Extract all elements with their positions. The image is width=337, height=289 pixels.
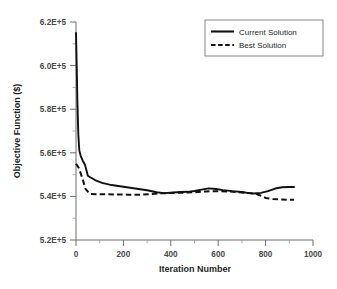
x-tick-label: 0 — [74, 250, 79, 259]
x-tick-label: 400 — [164, 250, 178, 259]
x-tick-label: 1000 — [304, 250, 323, 259]
y-tick-label: 5.2E+5 — [40, 236, 67, 245]
x-tick-label: 800 — [259, 250, 273, 259]
legend-box — [205, 20, 323, 56]
chart-legend: Current Solution Best Solution — [205, 20, 323, 56]
x-tick-label: 200 — [117, 250, 131, 259]
x-tick-label: 600 — [211, 250, 225, 259]
y-tick-label: 5.4E+5 — [40, 192, 67, 201]
x-axis-title: Iteration Number — [159, 264, 232, 274]
legend-label-current-solution: Current Solution — [239, 28, 297, 37]
y-tick-label: 5.8E+5 — [40, 105, 67, 114]
y-tick-label: 6.0E+5 — [40, 62, 67, 71]
y-axis-title: Objective Function ($) — [12, 84, 22, 179]
objective-function-convergence-chart: 5.2E+5 5.4E+5 5.6E+5 5.8E+5 6.0E+5 6.2E+… — [0, 0, 337, 289]
y-tick-label: 6.2E+5 — [40, 18, 67, 27]
y-tick-label: 5.6E+5 — [40, 149, 67, 158]
chart-figure: 5.2E+5 5.4E+5 5.6E+5 5.8E+5 6.0E+5 6.2E+… — [0, 0, 337, 289]
legend-label-best-solution: Best Solution — [239, 41, 286, 50]
